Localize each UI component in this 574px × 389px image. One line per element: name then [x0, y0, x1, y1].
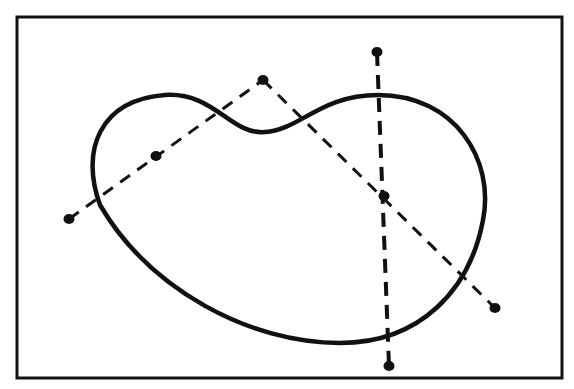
segment-vertical: [377, 52, 389, 366]
non-convex-region-diagram: [0, 0, 574, 389]
point-top: [372, 47, 383, 57]
point-right: [490, 303, 501, 313]
point-intersection: [379, 191, 390, 201]
point-bottom: [384, 361, 395, 371]
segment-left-to-apex: [69, 80, 263, 219]
point-inner-left: [151, 151, 162, 161]
points: [64, 47, 501, 371]
bean-shaped-curve: [93, 95, 486, 343]
point-left: [64, 214, 75, 224]
point-apex: [258, 75, 269, 85]
line-segments: [69, 52, 495, 366]
